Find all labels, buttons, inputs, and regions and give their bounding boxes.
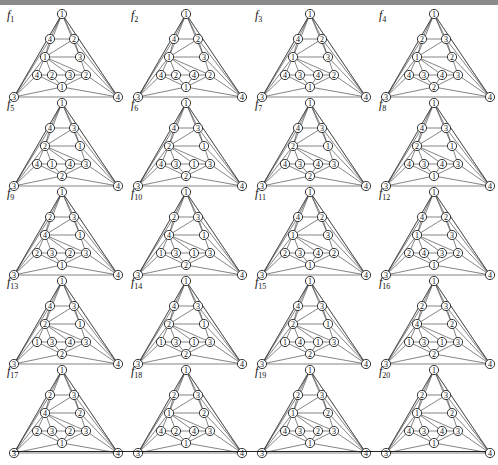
svg-text:1: 1 <box>184 277 188 286</box>
graph-node-c: 2 <box>164 141 173 151</box>
svg-text:3: 3 <box>422 338 426 347</box>
graph-node-b: 3 <box>317 301 326 311</box>
graph-node-f: 3 <box>47 248 56 258</box>
graph-node-b: 3 <box>193 390 202 400</box>
graph-node-e: 4 <box>404 70 413 80</box>
svg-text:2: 2 <box>296 391 300 400</box>
graph-drawing: 123411313234 <box>124 183 248 275</box>
graph-node-f: 1 <box>47 159 56 169</box>
graph-panel-f19: f19 123124323134 <box>248 361 372 450</box>
graph-node-a: 4 <box>169 301 178 311</box>
graph-node-i: 1 <box>181 438 190 448</box>
graph-node-c: 2 <box>288 319 297 329</box>
svg-text:2: 2 <box>48 213 52 222</box>
svg-text:2: 2 <box>420 391 424 400</box>
graph-edge <box>334 431 366 453</box>
svg-text:3: 3 <box>72 213 76 222</box>
graph-drawing: 123421313234 <box>372 272 496 364</box>
graph-edge <box>14 192 62 275</box>
graph-node-a: 4 <box>293 212 302 222</box>
graph-edge <box>262 395 298 453</box>
svg-text:1: 1 <box>78 142 82 151</box>
graph-node-c: 1 <box>40 52 49 62</box>
svg-text:3: 3 <box>440 249 444 258</box>
graph-drawing: 143211413234 <box>248 272 372 364</box>
svg-text:4: 4 <box>68 338 72 347</box>
graph-drawing: 142132342134 <box>248 183 372 275</box>
graph-node-g: 2 <box>65 426 74 436</box>
graph-node-f: 3 <box>171 337 180 347</box>
svg-text:2: 2 <box>172 213 176 222</box>
graph-node-c: 2 <box>412 141 421 151</box>
graph-node-e: 4 <box>32 159 41 169</box>
svg-text:2: 2 <box>456 249 460 258</box>
graph-edge <box>386 306 422 364</box>
svg-text:1: 1 <box>450 142 454 151</box>
graph-node-b: 2 <box>441 212 450 222</box>
graph-node-i: 2 <box>181 171 190 181</box>
svg-text:1: 1 <box>308 188 312 197</box>
graph-node-a: 4 <box>45 301 54 311</box>
graph-node-e: 4 <box>404 159 413 169</box>
svg-text:4: 4 <box>167 231 171 240</box>
graph-node-top: 1 <box>181 9 190 19</box>
graph-node-a: 4 <box>45 34 54 44</box>
graph-drawing: 143211313234 <box>124 272 248 364</box>
graph-node-d: 2 <box>447 52 456 62</box>
graph-node-d: 2 <box>75 408 84 418</box>
graph-node-f: 3 <box>295 159 304 169</box>
svg-text:2: 2 <box>60 172 64 181</box>
graph-panel-f13: f13 143211343234 <box>0 272 124 361</box>
graph-node-a: 4 <box>169 123 178 133</box>
graph-panel-f11: f11 142132342134 <box>248 183 372 272</box>
svg-text:4: 4 <box>316 249 320 258</box>
graph-edge <box>14 39 50 97</box>
graph-node-h: 3 <box>453 337 462 347</box>
svg-text:2: 2 <box>450 53 454 62</box>
svg-text:2: 2 <box>43 320 47 329</box>
graph-node-top: 1 <box>429 98 438 108</box>
graph-node-b: 3 <box>441 301 450 311</box>
graph-node-b: 3 <box>441 34 450 44</box>
svg-text:4: 4 <box>159 427 163 436</box>
svg-text:2: 2 <box>174 427 178 436</box>
graph-drawing: 142134342134 <box>248 5 372 97</box>
graph-edge <box>138 103 186 186</box>
svg-text:3: 3 <box>84 160 88 169</box>
graph-node-g: 1 <box>313 337 322 347</box>
svg-text:2: 2 <box>60 350 64 359</box>
graph-panel-f1: f1 142134232134 <box>0 5 124 94</box>
graph-edge <box>138 39 174 97</box>
graph-node-g: 4 <box>65 337 74 347</box>
graph-edge <box>186 192 242 275</box>
svg-text:3: 3 <box>456 427 460 436</box>
graph-edge <box>186 103 242 186</box>
svg-text:4: 4 <box>407 160 411 169</box>
svg-text:2: 2 <box>450 320 454 329</box>
graph-node-g: 4 <box>189 70 198 80</box>
svg-text:3: 3 <box>444 35 448 44</box>
graph-node-b: 3 <box>193 123 202 133</box>
graph-edge <box>138 14 186 97</box>
graph-edge <box>446 306 490 364</box>
graph-node-f: 2 <box>171 70 180 80</box>
graph-node-e: 2 <box>32 426 41 436</box>
svg-text:1: 1 <box>440 338 444 347</box>
graph-edge <box>14 128 50 186</box>
graph-edge <box>310 14 366 97</box>
svg-text:1: 1 <box>202 320 206 329</box>
svg-text:1: 1 <box>43 53 47 62</box>
svg-text:4: 4 <box>407 427 411 436</box>
graph-node-f: 4 <box>295 337 304 347</box>
svg-text:1: 1 <box>432 366 436 375</box>
graph-node-g: 2 <box>65 248 74 258</box>
svg-text:3: 3 <box>326 53 330 62</box>
graph-node-i: 1 <box>305 438 314 448</box>
svg-text:1: 1 <box>202 142 206 151</box>
graph-edge <box>310 103 366 186</box>
graph-panel-f4: f4 123124343234 <box>372 5 496 94</box>
svg-text:4: 4 <box>159 71 163 80</box>
graph-edge <box>322 217 366 275</box>
graph-node-i: 1 <box>305 260 314 270</box>
svg-text:2: 2 <box>184 261 188 270</box>
